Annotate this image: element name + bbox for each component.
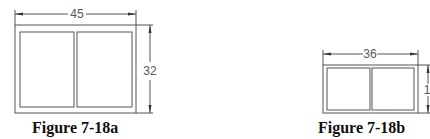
height-label-b: 1 <box>424 83 430 97</box>
arrow-right-b-icon <box>410 53 418 56</box>
inner-panel-right-b <box>372 68 414 110</box>
inner-panel-left <box>20 32 74 107</box>
arrow-left-b-icon <box>323 53 331 56</box>
caption-figure-b: Figure 7-18b <box>318 119 405 137</box>
arrow-up-b-icon <box>427 65 430 73</box>
arrow-up-icon <box>149 25 152 33</box>
inner-panel-left-b <box>327 68 370 110</box>
caption-figure-a: Figure 7-18a <box>32 119 118 137</box>
width-label-b: 36 <box>363 47 377 61</box>
inner-panel-right <box>77 32 132 107</box>
width-label-a: 45 <box>70 7 84 21</box>
arrow-right-icon <box>128 13 136 16</box>
outer-frame <box>15 25 136 113</box>
arrow-down-b-icon <box>427 105 430 113</box>
height-label-a: 32 <box>143 64 157 78</box>
arrow-left-icon <box>15 13 23 16</box>
arrow-down-icon <box>149 105 152 113</box>
figure-7-18a-drawing <box>15 10 153 113</box>
